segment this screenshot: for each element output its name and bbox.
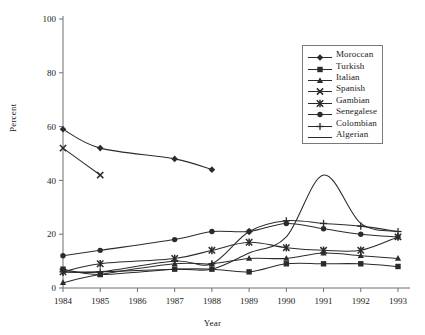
svg-text:20: 20 xyxy=(47,229,57,239)
data-point-circle xyxy=(209,229,214,234)
chart-figure: 0204060801001984198519861987198819891990… xyxy=(0,0,425,335)
data-point-diamond xyxy=(171,156,178,163)
legend-item-italian[interactable]: Italian xyxy=(307,72,377,83)
svg-text:1991: 1991 xyxy=(315,296,333,306)
svg-text:40: 40 xyxy=(47,176,57,186)
legend-label: Colombian xyxy=(333,118,377,129)
data-point-circle xyxy=(60,253,65,258)
legend-item-moroccan[interactable]: Moroccan xyxy=(307,49,377,60)
data-point-circle xyxy=(172,237,177,242)
legend-marker-none-icon xyxy=(307,129,333,140)
legend-marker-triangle-icon xyxy=(307,72,333,83)
series-colombian xyxy=(59,217,401,275)
legend-marker-diamond-icon xyxy=(307,49,333,60)
svg-text:1993: 1993 xyxy=(389,296,408,306)
series-turkish xyxy=(60,261,400,277)
series-algerian xyxy=(63,175,398,272)
data-point-circle xyxy=(98,248,103,253)
legend-marker-square-icon xyxy=(307,61,333,72)
svg-text:1992: 1992 xyxy=(352,296,370,306)
legend-item-turkish[interactable]: Turkish xyxy=(307,60,377,71)
data-point-diamond xyxy=(209,166,216,173)
svg-text:1985: 1985 xyxy=(91,296,110,306)
legend-label: Moroccan xyxy=(333,49,373,60)
data-point-square xyxy=(358,261,363,266)
legend-label: Turkish xyxy=(333,61,364,72)
svg-text:1987: 1987 xyxy=(166,296,185,306)
legend-label: Italian xyxy=(333,72,360,83)
series-senegalese xyxy=(60,221,400,259)
svg-text:1984: 1984 xyxy=(54,296,73,306)
legend-label: Spanish xyxy=(333,83,365,94)
y-axis-title-wrap: Percent xyxy=(6,120,20,130)
legend-marker-x-icon xyxy=(307,83,333,94)
data-point-diamond xyxy=(97,145,104,152)
chart-legend: MoroccanTurkishItalianSpanishGambianSene… xyxy=(302,45,383,144)
legend-marker-circle-icon xyxy=(307,106,333,117)
data-point-square xyxy=(321,261,326,266)
data-point-plus xyxy=(246,228,253,235)
legend-item-spanish[interactable]: Spanish xyxy=(307,83,377,94)
data-point-circle xyxy=(358,232,363,237)
legend-label: Gambian xyxy=(333,95,370,106)
svg-text:100: 100 xyxy=(43,14,57,24)
legend-item-colombian[interactable]: Colombian xyxy=(307,117,377,128)
series-spanish xyxy=(60,145,103,178)
data-point-circle xyxy=(317,112,322,117)
data-point-plus xyxy=(208,260,215,267)
y-axis-title: Percent xyxy=(8,118,18,132)
svg-text:1989: 1989 xyxy=(240,296,259,306)
legend-label: Algerian xyxy=(333,129,368,140)
data-point-square xyxy=(284,261,289,266)
data-point-square xyxy=(246,269,251,274)
legend-item-algerian[interactable]: Algerian xyxy=(307,129,377,140)
svg-text:1988: 1988 xyxy=(203,296,222,306)
svg-text:0: 0 xyxy=(52,283,57,293)
legend-marker-star-icon xyxy=(307,95,333,106)
series-moroccan xyxy=(60,126,215,173)
data-point-x xyxy=(97,172,103,178)
legend-marker-plus-icon xyxy=(307,118,333,129)
legend-item-gambian[interactable]: Gambian xyxy=(307,95,377,106)
data-point-plus xyxy=(320,220,327,227)
legend-item-senegalese[interactable]: Senegalese xyxy=(307,106,377,117)
y-axis-ticks: 020406080100 xyxy=(43,14,64,293)
svg-text:1986: 1986 xyxy=(128,296,147,306)
x-axis-title: Year xyxy=(0,318,425,328)
svg-text:1990: 1990 xyxy=(277,296,296,306)
legend-label: Senegalese xyxy=(333,106,377,117)
series-italian xyxy=(60,250,401,285)
data-point-square xyxy=(317,66,322,71)
svg-text:60: 60 xyxy=(47,122,57,132)
x-axis-ticks: 1984198519861987198819891990199119921993 xyxy=(54,288,408,306)
svg-text:80: 80 xyxy=(47,68,57,78)
data-point-square xyxy=(395,264,400,269)
